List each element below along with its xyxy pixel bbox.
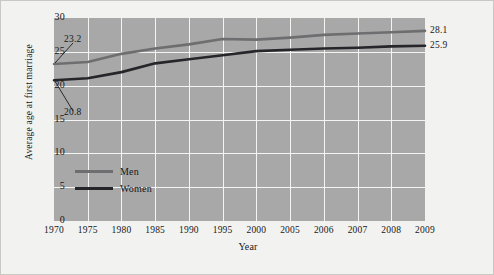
legend-swatch-icon — [75, 170, 113, 173]
data-label-women-end: 25.9 — [430, 40, 447, 50]
legend-label: Men — [120, 166, 139, 177]
legend-item-men: Men — [75, 163, 152, 180]
legend-swatch-icon — [75, 187, 113, 190]
data-label-men-end: 28.1 — [430, 25, 447, 35]
chart-figure: Average age at first marriage Year 05101… — [0, 0, 494, 275]
annotation-leader-line — [55, 43, 73, 63]
data-label-men-start: 23.2 — [64, 34, 81, 44]
legend: MenWomen — [75, 163, 152, 197]
legend-item-women: Women — [75, 180, 152, 197]
data-label-women-start: 20.8 — [64, 107, 81, 117]
series-line-women — [54, 46, 425, 81]
legend-label: Women — [120, 183, 152, 194]
